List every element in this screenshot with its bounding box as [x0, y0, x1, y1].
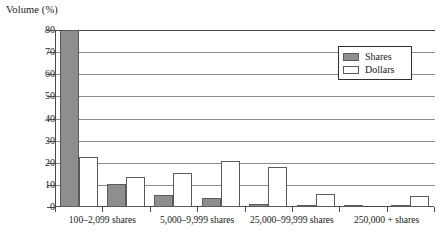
bar-shares [202, 198, 221, 207]
legend-item: Dollars [343, 63, 406, 76]
legend-swatch-shares [343, 53, 359, 61]
y-tick-mark [47, 185, 55, 186]
x-tick-label: 100–2,099 shares [69, 214, 136, 225]
y-axis: 01020304050607080 [0, 0, 55, 248]
x-tick-mark [197, 207, 198, 212]
y-tick-mark [47, 207, 55, 208]
bar-dollars [79, 157, 98, 207]
legend-label: Dollars [365, 65, 394, 75]
legend-swatch-dollars [343, 66, 359, 74]
y-tick-mark [47, 52, 55, 53]
y-tick-mark [47, 163, 55, 164]
x-tick-mark [102, 207, 103, 212]
x-tick-mark [292, 207, 293, 212]
x-tick-mark [150, 207, 151, 212]
x-tick-mark [387, 207, 388, 212]
y-tick-mark [47, 96, 55, 97]
bar-shares [154, 195, 173, 207]
bar-dollars [173, 173, 192, 207]
bar-shares [391, 205, 410, 207]
y-tick-mark [47, 141, 55, 142]
bar-dollars [221, 161, 240, 207]
y-tick-mark [47, 30, 55, 31]
x-tick-mark [434, 207, 435, 212]
y-tick-mark [47, 119, 55, 120]
x-tick-label: 25,000–99,999 shares [250, 214, 334, 225]
bar-dollars [268, 167, 287, 207]
x-tick-label: 5,000–9,999 shares [160, 214, 234, 225]
bar-dollars [126, 177, 145, 207]
x-tick-mark [55, 207, 56, 212]
x-tick-mark [245, 207, 246, 212]
legend-item: Shares [343, 50, 406, 63]
y-tick-mark [47, 74, 55, 75]
chart-legend: SharesDollars [338, 46, 412, 80]
bar-shares [344, 205, 363, 207]
bar-shares [60, 30, 79, 207]
legend-label: Shares [365, 52, 392, 62]
x-tick-mark [339, 207, 340, 212]
bar-dollars [410, 196, 429, 207]
bar-shares [249, 204, 268, 207]
bar-shares [107, 184, 126, 207]
bar-dollars [316, 194, 335, 207]
bar-chart: Volume (%) 01020304050607080 100–2,099 s… [0, 0, 439, 248]
x-tick-label: 250,000 + shares [354, 214, 419, 225]
bar-shares [297, 205, 316, 207]
